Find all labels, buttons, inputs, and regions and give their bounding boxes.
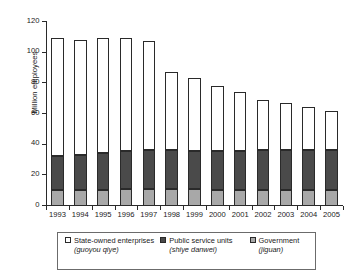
bar-segment-psu-1999[interactable] — [188, 151, 201, 190]
bar-segment-soe-2004[interactable] — [302, 107, 315, 151]
legend-swatch-dark-grey-square-icon — [160, 237, 166, 243]
bar-segment-gov-1999[interactable] — [188, 189, 201, 206]
x-axis-tick-label-2000: 2000 — [209, 210, 226, 219]
x-axis-tick — [229, 206, 230, 210]
y-axis-tick-label: 100 — [27, 46, 40, 55]
x-axis-tick-label-1997: 1997 — [140, 210, 157, 219]
bar-2001[interactable] — [234, 92, 247, 206]
legend-item-state-owned-enterprises[interactable]: State-owned enterprises(guoyou qiye) — [65, 236, 156, 254]
bar-segment-soe-1995[interactable] — [97, 38, 110, 154]
x-axis-tick — [160, 206, 161, 210]
bar-segment-psu-1997[interactable] — [143, 150, 156, 189]
bar-segment-soe-2002[interactable] — [257, 100, 270, 151]
y-axis-tick: 120 — [42, 21, 46, 22]
bar-2000[interactable] — [211, 85, 224, 206]
bar-segment-psu-1994[interactable] — [74, 155, 87, 190]
legend-romanization-shiye-danwei: (shiye danwei) — [169, 245, 217, 254]
bar-segment-psu-2005[interactable] — [325, 150, 338, 190]
x-axis-tick-label-1998: 1998 — [163, 210, 180, 219]
x-axis-tick — [183, 206, 184, 210]
bar-1998[interactable] — [165, 72, 178, 206]
x-axis-tick-label-2004: 2004 — [300, 210, 317, 219]
legend-item-government[interactable]: Government(jiguan) — [250, 236, 315, 254]
bar-segment-soe-1998[interactable] — [165, 72, 178, 150]
legend-romanization-guoyou-qiye: (guoyou qiye) — [74, 245, 119, 254]
bar-segment-gov-2004[interactable] — [302, 190, 315, 206]
bar-segment-psu-2001[interactable] — [234, 151, 247, 190]
x-axis-tick — [252, 206, 253, 210]
bar-1993[interactable] — [51, 38, 64, 207]
bar-segment-gov-2003[interactable] — [280, 190, 293, 206]
bar-segment-psu-1995[interactable] — [97, 153, 110, 189]
bar-segment-soe-2000[interactable] — [211, 86, 224, 151]
y-axis-tick-label: 60 — [31, 108, 39, 117]
x-axis-tick — [46, 206, 47, 210]
x-axis-tick-label-1999: 1999 — [186, 210, 203, 219]
legend-swatch-light-grey-square-icon — [250, 237, 256, 243]
y-axis-line — [46, 21, 47, 207]
bar-segment-soe-1994[interactable] — [74, 40, 87, 155]
bar-segment-gov-1998[interactable] — [165, 189, 178, 206]
y-axis-tick: 20 — [42, 174, 46, 175]
bar-segment-psu-2000[interactable] — [211, 151, 224, 190]
bar-segment-psu-2004[interactable] — [302, 150, 315, 189]
bar-segment-psu-2002[interactable] — [257, 150, 270, 189]
bar-2004[interactable] — [302, 107, 315, 206]
y-axis-tick-label: 0 — [35, 200, 39, 209]
x-axis-tick — [206, 206, 207, 210]
bar-segment-gov-2001[interactable] — [234, 190, 247, 206]
bar-segment-soe-2001[interactable] — [234, 92, 247, 151]
bar-1995[interactable] — [97, 38, 110, 206]
bar-1997[interactable] — [143, 41, 156, 206]
legend-label-state-owned-enterprises: State-owned enterprises(guoyou qiye) — [74, 236, 154, 254]
x-axis-tick-label-2002: 2002 — [255, 210, 272, 219]
x-axis-tick — [274, 206, 275, 210]
bar-segment-gov-1995[interactable] — [97, 190, 110, 206]
y-axis-tick: 100 — [42, 52, 46, 53]
bar-segment-gov-2000[interactable] — [211, 190, 224, 206]
y-axis-tick-label: 40 — [31, 138, 39, 147]
bar-segment-psu-1998[interactable] — [165, 150, 178, 189]
bar-segment-soe-1997[interactable] — [143, 41, 156, 150]
bar-1994[interactable] — [74, 39, 87, 206]
bar-segment-soe-1993[interactable] — [51, 38, 64, 156]
legend-label-public-service-units: Public service units(shiye danwei) — [169, 236, 232, 254]
legend-item-public-service-units[interactable]: Public service units(shiye danwei) — [160, 236, 247, 254]
bar-segment-soe-2005[interactable] — [325, 111, 338, 151]
bar-segment-gov-1996[interactable] — [120, 189, 133, 206]
y-axis-tick: 60 — [42, 113, 46, 114]
y-axis-tick: 40 — [42, 144, 46, 145]
legend-romanization-jiguan: (jiguan) — [259, 245, 284, 254]
x-axis-tick-label-2003: 2003 — [277, 210, 294, 219]
bar-segment-psu-1993[interactable] — [51, 156, 64, 191]
bar-segment-gov-2002[interactable] — [257, 190, 270, 206]
bar-segment-psu-1996[interactable] — [120, 151, 133, 189]
bar-2005[interactable] — [325, 111, 338, 206]
x-axis-tick-label-2005: 2005 — [323, 210, 340, 219]
bar-1996[interactable] — [120, 38, 133, 206]
x-axis-tick-label-1996: 1996 — [118, 210, 135, 219]
bar-2002[interactable] — [257, 100, 270, 206]
x-axis-tick — [115, 206, 116, 210]
bar-segment-gov-1997[interactable] — [143, 189, 156, 206]
bar-segment-soe-1996[interactable] — [120, 38, 133, 151]
x-axis-tick — [92, 206, 93, 210]
y-axis-tick: 80 — [42, 82, 46, 83]
x-axis-tick-label-1993: 1993 — [49, 210, 66, 219]
bar-segment-gov-1993[interactable] — [51, 190, 64, 206]
bar-segment-soe-1999[interactable] — [188, 78, 201, 150]
y-axis-tick-label: 120 — [27, 16, 40, 25]
bar-segment-gov-1994[interactable] — [74, 190, 87, 206]
bar-1999[interactable] — [188, 78, 201, 206]
x-axis-tick — [297, 206, 298, 210]
plot-area: 020406080100120 199319941995199619971998… — [46, 22, 343, 206]
bar-segment-psu-2003[interactable] — [280, 150, 293, 189]
chart-legend: State-owned enterprises(guoyou qiye) Pub… — [57, 232, 316, 270]
bar-segment-soe-2003[interactable] — [280, 103, 293, 151]
x-axis-tick — [69, 206, 70, 210]
x-axis-tick — [137, 206, 138, 210]
bar-2003[interactable] — [280, 103, 293, 206]
y-axis-tick-label: 80 — [31, 77, 39, 86]
x-axis-tick-label-1994: 1994 — [72, 210, 89, 219]
bar-segment-gov-2005[interactable] — [325, 190, 338, 206]
